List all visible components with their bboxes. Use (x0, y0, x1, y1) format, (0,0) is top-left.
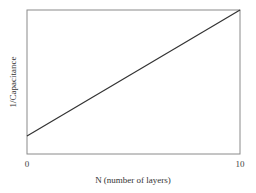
y-axis-label: 1/Capacitance (8, 57, 18, 108)
x-axis-label: N (number of layers) (95, 175, 171, 185)
x-tick-10: 10 (236, 159, 246, 169)
data-line (27, 10, 240, 136)
chart-svg: 0 10 N (number of layers) 1/Capacitance (0, 0, 256, 193)
plot-frame (27, 10, 240, 154)
x-tick-0: 0 (25, 159, 30, 169)
